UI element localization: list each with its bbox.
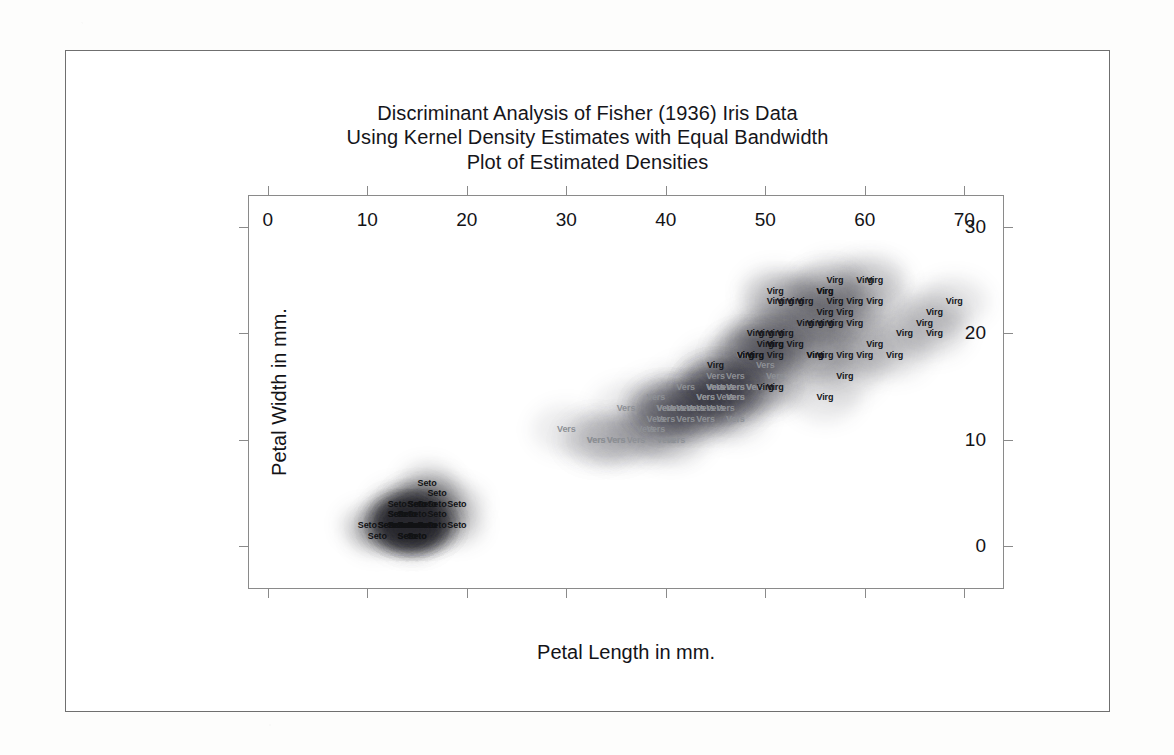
- density-blob: [632, 383, 700, 432]
- density-blob: [371, 506, 423, 543]
- point-label-virg: Virg: [767, 340, 784, 349]
- point-label-seto: Seto: [427, 521, 446, 530]
- density-blob: [401, 464, 453, 501]
- density-blob: [391, 506, 443, 543]
- density-blob: [381, 496, 433, 533]
- point-label-seto: Seto: [398, 531, 417, 540]
- point-label-virg: Virg: [866, 297, 883, 306]
- point-label-seto: Seto: [398, 510, 417, 519]
- density-blob: [811, 288, 879, 337]
- x-axis-label: Petal Length in mm.: [248, 641, 1004, 664]
- density-blob: [831, 330, 899, 379]
- point-label-vers: Vers: [617, 403, 636, 412]
- point-label-vers: Vers: [637, 425, 656, 434]
- density-blob: [391, 506, 443, 543]
- x-tick-mark-top: [367, 186, 368, 195]
- density-blob: [662, 383, 730, 432]
- point-label-seto: Seto: [408, 499, 427, 508]
- y-tick-mark: [239, 440, 248, 441]
- point-label-seto: Seto: [427, 489, 446, 498]
- density-blob: [622, 373, 690, 422]
- point-label-seto: Seto: [408, 521, 427, 530]
- point-label-seto: Seto: [398, 521, 417, 530]
- point-label-vers: Vers: [666, 435, 685, 444]
- density-blob: [391, 485, 443, 522]
- point-label-vers: Vers: [686, 403, 705, 412]
- density-blob: [741, 277, 809, 326]
- y-tick-mark: [239, 546, 248, 547]
- density-blob: [652, 383, 720, 432]
- point-label-virg: Virg: [767, 382, 784, 391]
- density-blob: [831, 256, 899, 305]
- x-tick-mark-top: [865, 186, 866, 195]
- point-label-vers: Vers: [706, 382, 725, 391]
- point-label-virg: Virg: [816, 350, 833, 359]
- density-blob: [381, 506, 433, 543]
- point-label-virg: Virg: [787, 340, 804, 349]
- point-label-seto: Seto: [408, 499, 427, 508]
- density-blob: [592, 383, 660, 432]
- density-blob: [791, 288, 859, 337]
- point-label-seto: Seto: [408, 531, 427, 540]
- density-blob: [841, 320, 909, 369]
- point-label-vers: Vers: [706, 382, 725, 391]
- point-label-seto: Seto: [417, 521, 436, 530]
- x-tick-mark: [865, 589, 866, 598]
- density-blob: [632, 383, 700, 432]
- density-blob: [861, 330, 929, 379]
- y-tick-label: 30: [965, 216, 986, 238]
- density-blob: [381, 506, 433, 543]
- density-blob: [682, 383, 750, 432]
- point-label-virg: Virg: [836, 308, 853, 317]
- density-blob: [791, 373, 859, 422]
- density-blob: [391, 517, 443, 554]
- point-label-virg: Virg: [856, 276, 873, 285]
- density-blob: [642, 383, 710, 432]
- density-blob: [731, 341, 799, 390]
- density-blob: [622, 405, 690, 454]
- point-label-seto: Seto: [398, 521, 417, 530]
- point-label-vers: Vers: [706, 382, 725, 391]
- scanned-page: Discriminant Analysis of Fisher (1936) I…: [0, 0, 1174, 755]
- y-axis-label-wrap: Petal Width in mm.: [130, 381, 430, 404]
- point-label-seto: Seto: [398, 510, 417, 519]
- point-label-vers: Vers: [656, 403, 675, 412]
- density-blob: [890, 298, 958, 347]
- point-label-virg: Virg: [916, 318, 933, 327]
- point-label-seto: Seto: [408, 521, 427, 530]
- point-label-virg: Virg: [747, 350, 764, 359]
- x-tick-mark: [666, 589, 667, 598]
- point-label-seto: Seto: [398, 521, 417, 530]
- x-tick-label: 20: [456, 209, 477, 231]
- density-blob: [381, 506, 433, 543]
- density-blob: [682, 362, 750, 411]
- point-label-vers: Vers: [676, 403, 695, 412]
- point-label-seto: Seto: [388, 510, 407, 519]
- point-label-virg: Virg: [777, 297, 794, 306]
- density-blob: [371, 485, 423, 522]
- point-label-seto: Seto: [398, 510, 417, 519]
- point-label-vers: Vers: [656, 435, 675, 444]
- density-blob: [391, 506, 443, 543]
- density-blob: [781, 330, 849, 379]
- density-blob: [632, 383, 700, 432]
- point-label-seto: Seto: [388, 499, 407, 508]
- density-blob: [701, 362, 769, 411]
- density-blob: [391, 506, 443, 543]
- point-label-virg: Virg: [816, 308, 833, 317]
- density-blob: [401, 506, 453, 543]
- x-tick-mark-top: [666, 186, 667, 195]
- density-blob: [622, 394, 690, 443]
- density-blob: [612, 405, 680, 454]
- point-label-vers: Vers: [656, 414, 675, 423]
- density-blob: [642, 383, 710, 432]
- density-blob: [401, 506, 453, 543]
- point-label-seto: Seto: [417, 521, 436, 530]
- density-blob: [562, 415, 630, 464]
- point-label-virg: Virg: [767, 297, 784, 306]
- y-tick-mark: [239, 227, 248, 228]
- point-label-virg: Virg: [807, 318, 824, 327]
- density-blob: [751, 277, 819, 326]
- point-label-vers: Vers: [726, 382, 745, 391]
- density-blob: [401, 506, 453, 543]
